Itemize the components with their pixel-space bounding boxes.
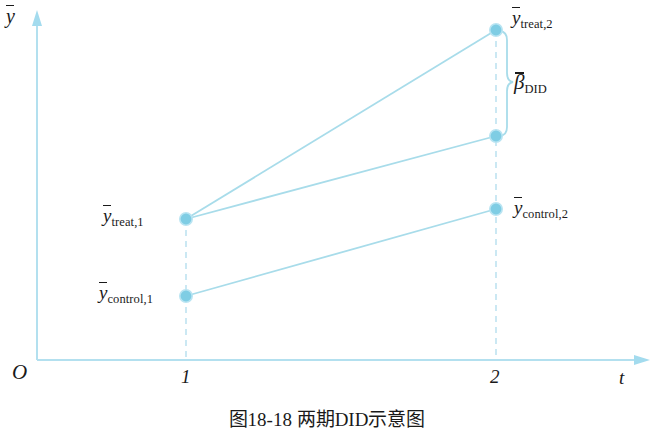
control-line [186,209,496,296]
x-tick-1: 1 [181,366,191,388]
label-control-1: ycontrol,1 [99,283,153,302]
figure-caption: 图18-18 两期DID示意图 [0,404,654,431]
x-axis-label: t [619,368,624,387]
treatment-line [186,30,496,219]
label-control-2: ycontrol,2 [514,198,568,217]
y-axis [32,10,42,360]
label-treat-2-sub: treat,2 [520,17,552,31]
label-treat-1-sub: treat,1 [111,215,143,229]
x-axis [37,355,650,365]
label-treat-2: ytreat,2 [512,8,553,27]
point-treat-2 [490,24,502,36]
point-counterfactual-2 [490,130,502,142]
label-control-2-sub: control,2 [522,207,568,221]
label-beta-did-base: β [514,72,524,93]
point-control-1 [180,290,192,302]
y-axis-label-text: y [6,6,15,26]
label-treat-1: ytreat,1 [103,206,144,225]
point-treat-1 [180,213,192,225]
label-beta-did-sub: DID [524,82,547,96]
counterfactual-line [186,136,496,219]
origin-label: O [12,362,27,383]
x-tick-2: 2 [490,366,500,388]
label-beta-did: βDID [514,72,547,93]
point-control-2 [490,203,502,215]
beta-did-brace [500,31,513,136]
label-control-1-sub: control,1 [107,292,153,306]
y-axis-label: y [6,6,15,26]
